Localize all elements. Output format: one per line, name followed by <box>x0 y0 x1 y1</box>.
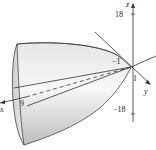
x-axis-arrow <box>0 100 5 104</box>
y-tick-label-neg: −1 <box>112 57 121 66</box>
y-axis-label: y <box>143 87 148 96</box>
z-axis-label: z <box>125 0 130 9</box>
z-tick-label-top: 18 <box>115 10 123 19</box>
paraboloid-diagram: z 18 −18 −1 1 y x 9 <box>0 0 156 150</box>
diagonal-line <box>131 56 156 67</box>
z-tick-label-bottom: −18 <box>113 105 126 114</box>
y-tick-label-pos: 1 <box>133 74 137 83</box>
y-axis-arrow <box>145 80 151 85</box>
x-axis-label: x <box>0 105 4 114</box>
z-axis-arrow <box>131 3 135 8</box>
x-tick-label: 9 <box>20 99 24 108</box>
